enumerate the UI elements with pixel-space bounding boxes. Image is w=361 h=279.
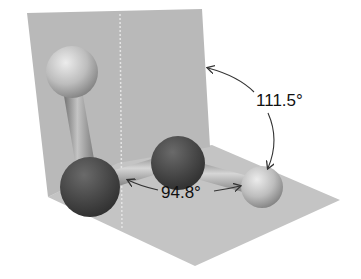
dihedral-angle-label: 111.5° bbox=[256, 91, 303, 110]
atom-h2 bbox=[241, 166, 283, 208]
bond-angle-label: 94.8° bbox=[161, 183, 201, 202]
atom-h1 bbox=[46, 46, 98, 98]
atom-o2 bbox=[151, 136, 205, 190]
atom-o1 bbox=[60, 157, 120, 217]
molecule-diagram: 111.5° 94.8° bbox=[0, 0, 361, 279]
dihedral-arc-lower bbox=[268, 113, 274, 168]
dihedral-arc-upper bbox=[208, 68, 254, 92]
